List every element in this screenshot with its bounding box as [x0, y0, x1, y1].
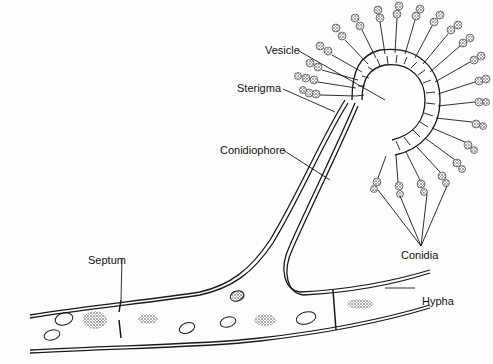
diagram-drawing: [0, 0, 493, 364]
label-conidiophore: Conidiophore: [220, 145, 285, 156]
label-conidia: Conidia: [401, 250, 438, 261]
conidiophore-diagram: Vesicle Sterigma Conidiophore Conidia Se…: [0, 0, 493, 364]
hypha-contents: [43, 289, 373, 342]
vesicle-cells: [356, 55, 435, 150]
label-vesicle: Vesicle: [265, 45, 300, 56]
label-septum: Septum: [88, 255, 126, 266]
label-hypha: Hypha: [422, 296, 454, 307]
septa: [119, 290, 336, 338]
conidia: [295, 2, 491, 198]
label-sterigma: Sterigma: [237, 83, 281, 94]
sterigmata: [318, 18, 475, 182]
